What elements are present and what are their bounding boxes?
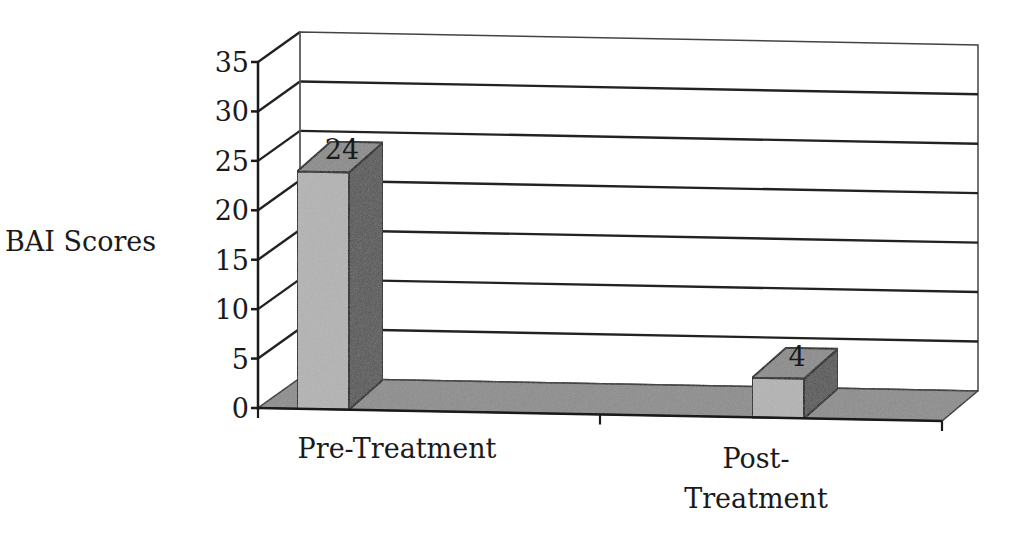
bar-front-face: [297, 171, 349, 409]
side-gridline: [258, 230, 300, 260]
x-category-label: Post-: [722, 443, 789, 474]
x-category-label: Treatment: [684, 483, 828, 514]
side-gridline: [258, 180, 300, 210]
data-label: 24: [325, 134, 359, 165]
y-tick-label: 30: [215, 96, 249, 127]
bar-chart-3d: 05101520253035 244 Pre-TreatmentPost-Tre…: [0, 0, 1009, 536]
bar-pre-treatment: 24: [297, 134, 383, 409]
back-wall-panel: [300, 32, 978, 391]
y-tick-label: 20: [215, 195, 249, 226]
side-gridline: [258, 131, 300, 161]
side-gridline: [258, 32, 300, 62]
y-tick-label: 25: [215, 146, 249, 177]
bar-front-face: [752, 378, 804, 419]
y-tick-label: 5: [232, 344, 249, 375]
side-gridline: [258, 329, 300, 359]
y-axis: 05101520253035: [215, 47, 258, 424]
bar-side-face: [349, 142, 383, 409]
side-gridline: [258, 81, 300, 111]
y-tick-label: 0: [232, 393, 249, 424]
y-tick-label: 35: [215, 47, 249, 78]
x-axis: Pre-TreatmentPost-Treatment: [258, 408, 942, 514]
x-category-label: Pre-Treatment: [298, 433, 497, 464]
y-tick-label: 10: [215, 294, 249, 325]
side-gridline: [258, 279, 300, 309]
data-label: 4: [788, 341, 805, 372]
y-axis-title: BAI Scores: [5, 226, 156, 257]
y-tick-label: 15: [215, 245, 249, 276]
